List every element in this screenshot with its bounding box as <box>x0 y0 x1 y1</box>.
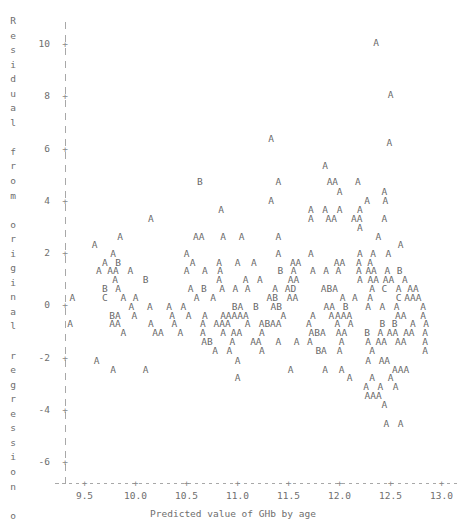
y-tick-mark: + <box>60 353 70 363</box>
data-mark: A <box>219 232 227 242</box>
data-mark: A <box>274 177 282 187</box>
data-mark: A <box>211 346 219 356</box>
data-mark: A <box>307 249 315 259</box>
x-axis-spine <box>55 483 458 484</box>
y-axis-title-char: n <box>6 480 20 495</box>
data-mark: A <box>364 356 372 366</box>
data-mark: A <box>338 365 346 375</box>
y-tick-label: -6 <box>24 457 50 467</box>
data-mark: A <box>372 38 380 48</box>
y-axis-title-char: a <box>6 101 20 116</box>
y-axis-title-char <box>6 494 20 509</box>
data-mark: A <box>250 258 258 268</box>
x-axis-title: Predicted value of GHb by age <box>0 508 466 519</box>
data-mark: B <box>200 284 208 294</box>
data-mark: A <box>93 356 101 366</box>
x-tick-mark: + <box>336 477 344 488</box>
data-mark: B <box>196 177 204 187</box>
data-mark: A <box>381 196 389 206</box>
data-mark: A <box>234 373 242 383</box>
y-axis-title-char: r <box>6 232 20 247</box>
y-tick-label: 8 <box>24 91 50 101</box>
data-mark: AA <box>150 328 166 338</box>
x-tick-mark: + <box>438 477 446 488</box>
data-mark: A <box>185 311 193 321</box>
data-mark: C <box>101 293 109 303</box>
data-mark: A <box>234 258 242 268</box>
data-mark: A <box>193 293 201 303</box>
data-mark: A <box>126 266 134 276</box>
data-mark: A <box>146 302 154 312</box>
data-mark: A <box>397 419 405 429</box>
y-axis-title-char: e <box>6 29 20 44</box>
data-mark: A <box>364 302 372 312</box>
data-mark: BA <box>313 346 329 356</box>
x-tick-label: 11.5 <box>267 490 311 501</box>
data-mark: B <box>276 266 284 276</box>
y-axis-title-char: R <box>6 14 20 29</box>
data-mark: A <box>384 249 392 259</box>
data-mark: A <box>354 177 362 187</box>
data-mark: A <box>95 266 103 276</box>
data-mark: A <box>274 232 282 242</box>
data-mark: A <box>351 293 359 303</box>
data-mark: A <box>363 196 371 206</box>
y-tick-mark: + <box>60 457 70 467</box>
x-tick-label: 12.0 <box>318 490 362 501</box>
data-mark: A <box>387 90 395 100</box>
x-tick-mark: + <box>285 477 293 488</box>
data-mark: A <box>346 373 354 383</box>
data-mark: A <box>334 266 342 276</box>
data-mark: A <box>397 240 405 250</box>
y-axis-title-char: s <box>6 421 20 436</box>
y-axis-title-char <box>6 203 20 218</box>
y-axis-title-char: i <box>6 450 20 465</box>
data-mark: A <box>385 138 393 148</box>
data-mark: A <box>219 328 227 338</box>
y-tick-mark: + <box>60 248 70 258</box>
y-axis-title-char: r <box>6 159 20 174</box>
data-mark: B <box>142 275 150 285</box>
y-tick-mark: + <box>60 91 70 101</box>
data-mark: A <box>321 365 329 375</box>
y-axis-title-char: i <box>6 58 20 73</box>
x-tick-mark: + <box>387 477 395 488</box>
residual-scatter-plot: Residual from original regression of GHb… <box>0 0 466 524</box>
data-mark: A <box>231 284 239 294</box>
y-axis-title-char: i <box>6 247 20 262</box>
data-mark: A <box>147 214 155 224</box>
data-mark: A <box>382 419 390 429</box>
y-axis-title-char <box>6 130 20 145</box>
data-mark: A <box>130 311 138 321</box>
data-mark: A <box>256 275 264 285</box>
data-mark: A <box>119 293 127 303</box>
data-mark: A <box>274 337 282 347</box>
data-mark: A <box>336 346 344 356</box>
y-axis-title-char: l <box>6 116 20 131</box>
data-mark: A <box>267 196 275 206</box>
y-tick-label: 0 <box>24 300 50 310</box>
y-tick-mark: + <box>60 39 70 49</box>
data-mark: A <box>116 232 124 242</box>
y-axis-title-char: m <box>6 189 20 204</box>
data-mark: AA <box>393 337 409 347</box>
y-tick-label: 4 <box>24 196 50 206</box>
data-mark: A <box>356 275 364 285</box>
y-axis-title-char: l <box>6 319 20 334</box>
y-axis-title-char: e <box>6 407 20 422</box>
x-tick-label: 11.0 <box>216 490 260 501</box>
data-mark: A <box>378 302 386 312</box>
data-mark: A <box>307 214 315 224</box>
data-mark: A <box>380 400 388 410</box>
data-mark: A <box>244 319 252 329</box>
data-mark: A <box>309 266 317 276</box>
data-mark: A <box>218 284 226 294</box>
y-axis-title-char: u <box>6 87 20 102</box>
y-axis-title-char: o <box>6 465 20 480</box>
y-axis-title-char: s <box>6 43 20 58</box>
data-mark: C <box>380 284 388 294</box>
y-axis-title-char: o <box>6 174 20 189</box>
data-mark: A <box>176 328 184 338</box>
y-tick-label: -4 <box>24 405 50 415</box>
y-axis-title-char: r <box>6 349 20 364</box>
